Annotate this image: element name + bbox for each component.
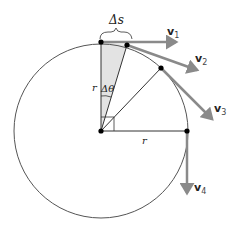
point-1: [98, 39, 103, 44]
vector-label-2: v2: [195, 52, 207, 67]
vector-label-1: v1: [167, 25, 179, 40]
center-point: [98, 128, 103, 133]
radius-label-vertical: r: [92, 82, 98, 93]
point-2: [124, 42, 129, 47]
point-3: [158, 65, 163, 70]
angle-label: Δθ: [100, 83, 114, 94]
arc-length-label: Δs: [108, 13, 124, 27]
point-4: [184, 128, 189, 133]
vector-label-4: v4: [194, 181, 206, 196]
circular-motion-diagram: Δs Δθ r r v1 v2 v3 v4: [0, 0, 240, 231]
vector-label-3: v3: [214, 102, 226, 117]
arc-brace: [100, 28, 132, 39]
velocity-vector-3: [161, 68, 212, 119]
radius-label-horizontal: r: [142, 135, 148, 146]
